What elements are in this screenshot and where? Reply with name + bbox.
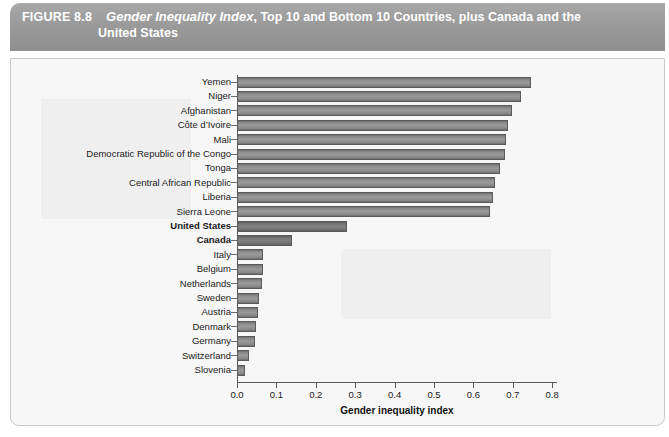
x-axis-tick [355, 383, 356, 388]
bar-row: Sierra Leone [11, 205, 666, 219]
bar[interactable] [237, 134, 506, 145]
category-label: Mali [214, 133, 231, 147]
category-label: Yemen [202, 75, 231, 89]
x-axis-tick-label: 0.7 [493, 389, 533, 400]
bar[interactable] [237, 77, 531, 88]
x-axis-tick [434, 383, 435, 388]
bar-row: Denmark [11, 320, 666, 334]
bar-row: Democratic Republic of the Congo [11, 147, 666, 161]
bar[interactable] [237, 120, 508, 131]
category-label: United States [170, 219, 231, 233]
bar[interactable] [237, 149, 505, 160]
bar[interactable] [237, 307, 258, 318]
category-label: Liberia [202, 190, 231, 204]
x-axis-tick-label: 0.2 [296, 389, 336, 400]
bar-row: Sweden [11, 291, 666, 305]
bar-row: Slovenia [11, 363, 666, 377]
category-label: Afghanistan [181, 104, 231, 118]
category-label: Sierra Leone [177, 205, 231, 219]
x-axis-tick [513, 383, 514, 388]
figure-title-line-1: FIGURE 8.8Gender Inequality Index, Top 1… [22, 9, 653, 25]
x-axis-tick-label: 0.1 [256, 389, 296, 400]
x-axis-tick [395, 383, 396, 388]
bar-row: Canada [11, 233, 666, 247]
x-axis-line [237, 382, 557, 383]
x-axis-tick-label: 0.0 [217, 389, 257, 400]
category-label: Denmark [192, 320, 231, 334]
x-axis-tick-label: 0.8 [532, 389, 572, 400]
figure-title-rest: , Top 10 and Bottom 10 Countries, plus C… [253, 10, 581, 24]
bar[interactable] [237, 206, 490, 217]
bar-row: Côte d’Ivoire [11, 118, 666, 132]
x-axis-tick [276, 383, 277, 388]
bar[interactable] [237, 192, 493, 203]
x-axis-tick [552, 383, 553, 388]
bar[interactable] [237, 221, 347, 232]
figure-title-line-2: United States [98, 25, 653, 41]
bar-row: Liberia [11, 190, 666, 204]
x-axis-tick-label: 0.4 [375, 389, 415, 400]
bar[interactable] [237, 235, 292, 246]
bar[interactable] [237, 336, 255, 347]
bar[interactable] [237, 264, 263, 275]
bar[interactable] [237, 249, 263, 260]
bar[interactable] [237, 163, 500, 174]
chart-panel: YemenNigerAfghanistanCôte d’IvoireMaliDe… [10, 58, 665, 426]
bar[interactable] [237, 177, 495, 188]
bar[interactable] [237, 365, 245, 376]
category-label: Belgium [197, 262, 231, 276]
bar[interactable] [237, 293, 259, 304]
bar-row: Tonga [11, 161, 666, 175]
bar[interactable] [237, 91, 521, 102]
x-axis-tick [237, 383, 238, 388]
bar-row: Central African Republic [11, 176, 666, 190]
x-axis-tick-label: 0.5 [414, 389, 454, 400]
bar-row: Yemen [11, 75, 666, 89]
bar-row: Italy [11, 248, 666, 262]
x-axis-tick [316, 383, 317, 388]
category-label: Austria [201, 305, 231, 319]
category-label: Côte d’Ivoire [178, 118, 231, 132]
figure-title-italic: Gender Inequality Index [106, 9, 253, 24]
category-label: Italy [214, 248, 231, 262]
bar-chart-plot: YemenNigerAfghanistanCôte d’IvoireMaliDe… [11, 59, 666, 427]
figure-number-label: FIGURE 8.8 [22, 10, 92, 24]
category-label: Germany [192, 334, 231, 348]
category-label: Tonga [205, 161, 231, 175]
category-label: Switzerland [182, 349, 231, 363]
x-axis-title: Gender inequality index [237, 405, 557, 416]
category-label: Central African Republic [129, 176, 231, 190]
bar-row: Mali [11, 133, 666, 147]
category-label: Canada [197, 233, 231, 247]
category-label: Niger [208, 89, 231, 103]
category-label: Democratic Republic of the Congo [86, 147, 231, 161]
bar[interactable] [237, 350, 249, 361]
category-label: Netherlands [180, 277, 231, 291]
bar-row: United States [11, 219, 666, 233]
figure-header-bar: FIGURE 8.8Gender Inequality Index, Top 1… [10, 3, 665, 51]
x-axis-tick-label: 0.3 [335, 389, 375, 400]
category-label: Sweden [197, 291, 231, 305]
bar-row: Niger [11, 89, 666, 103]
bar-row: Switzerland [11, 349, 666, 363]
bar-row: Germany [11, 334, 666, 348]
bar[interactable] [237, 321, 256, 332]
bar-row: Afghanistan [11, 104, 666, 118]
category-label: Slovenia [195, 363, 231, 377]
bar-row: Netherlands [11, 277, 666, 291]
x-axis-tick-label: 0.6 [453, 389, 493, 400]
bar-row: Belgium [11, 262, 666, 276]
bar-row: Austria [11, 305, 666, 319]
bar[interactable] [237, 105, 512, 116]
x-axis-tick [473, 383, 474, 388]
bar[interactable] [237, 278, 262, 289]
